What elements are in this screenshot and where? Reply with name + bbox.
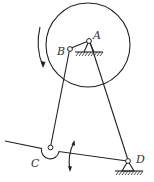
rotation-arrow-icon xyxy=(38,27,45,68)
oscillation-arrow-icon xyxy=(68,140,75,172)
lever-cd xyxy=(5,141,127,161)
label-c: C xyxy=(31,157,40,170)
link-bc xyxy=(51,50,70,147)
link-ad xyxy=(90,42,128,160)
joint-b xyxy=(68,47,73,52)
joint-a xyxy=(87,39,92,44)
label-a: A xyxy=(92,29,101,42)
mechanism-diagram: A B C D xyxy=(0,0,154,182)
joint-c xyxy=(48,145,53,150)
joint-d xyxy=(126,159,131,164)
label-b: B xyxy=(56,45,65,58)
label-d: D xyxy=(135,153,145,166)
